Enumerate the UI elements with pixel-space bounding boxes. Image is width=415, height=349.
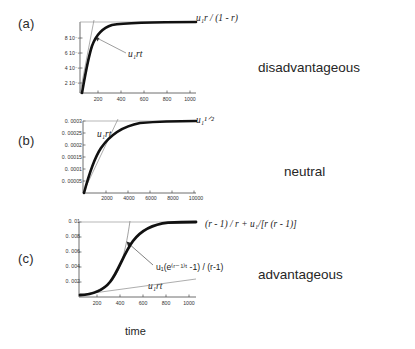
panel-c-plot: [0, 205, 230, 315]
panel-a-tangent-line: [80, 20, 94, 93]
panel-a: (a) disadvantageous 8 10⁻⁶ 6 10⁻⁶ 4 10⁻⁶…: [0, 0, 415, 110]
figure-container: (a) disadvantageous 8 10⁻⁶ 6 10⁻⁶ 4 10⁻⁶…: [0, 0, 415, 349]
panel-c: (c) advantageous 0. 01 0. 008 0. 006 0. …: [0, 205, 415, 349]
panel-a-leader-line: [95, 37, 126, 53]
panel-b-plot: [0, 108, 230, 208]
panel-a-plot: [0, 0, 230, 110]
panel-b-curve: [84, 121, 196, 193]
panel-a-category-label: disadvantageous: [258, 60, 360, 75]
panel-b: (b) neutral 0. 0003 0. 00025 0. 0002 0. …: [0, 108, 415, 208]
x-axis-title: time: [125, 325, 146, 337]
panel-c-leader-line: [128, 243, 153, 265]
panel-c-category-label: advantageous: [258, 267, 343, 282]
panel-a-curve: [82, 22, 196, 93]
panel-b-category-label: neutral: [284, 164, 325, 179]
panel-c-curve: [80, 222, 196, 295]
